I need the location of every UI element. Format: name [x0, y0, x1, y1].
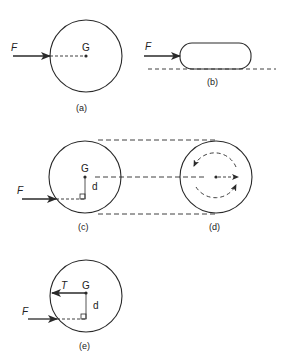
caption-d: (d)	[209, 222, 220, 232]
distance-label-e: d	[93, 300, 99, 311]
rotation-arc-top	[194, 153, 236, 167]
panel-e: F T G d (e)	[22, 260, 122, 351]
force-label-b: F	[145, 41, 152, 52]
free-body-diagram: F G (a) F (b) F G d (c) (d)	[0, 0, 287, 358]
panel-d: (d)	[180, 141, 252, 232]
force-label-c: F	[17, 185, 24, 196]
rotation-arc-bottom	[196, 185, 236, 198]
center-label-c: G	[81, 163, 89, 174]
force-label-a: F	[11, 42, 18, 53]
caption-c: (c)	[78, 222, 89, 232]
caption-b: (b)	[207, 77, 218, 87]
panel-b: F (b)	[144, 41, 276, 87]
right-angle-marker-c	[80, 194, 85, 199]
caption-e: (e)	[79, 341, 90, 351]
center-label-e: G	[82, 280, 90, 291]
force-label-e: F	[22, 306, 29, 317]
caption-a: (a)	[76, 103, 87, 113]
center-of-mass-a	[84, 54, 87, 57]
panel-c: F G d (c)	[17, 140, 216, 232]
disk-edge-on-b	[180, 43, 251, 69]
distance-label-c: d	[92, 181, 98, 192]
center-label-a: G	[82, 42, 90, 53]
reaction-label-e: T	[61, 280, 68, 291]
right-angle-marker-e	[81, 314, 86, 319]
panel-a: F G (a)	[11, 20, 122, 113]
center-d	[214, 175, 217, 178]
